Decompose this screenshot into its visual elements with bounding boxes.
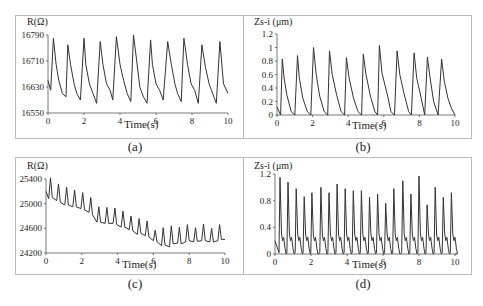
- panel-b-xlabel: Time(s): [352, 119, 386, 131]
- svg-text:10: 10: [224, 116, 234, 126]
- svg-text:0.8: 0.8: [260, 196, 272, 206]
- svg-text:0: 0: [273, 257, 278, 267]
- svg-text:0: 0: [44, 256, 49, 266]
- series-line-c: [46, 178, 225, 247]
- panel-b-caption: (b): [343, 139, 383, 155]
- svg-text:1.2: 1.2: [262, 29, 273, 39]
- svg-text:16710: 16710: [22, 56, 45, 66]
- panel-c-caption: (c): [115, 276, 155, 292]
- svg-text:0.4: 0.4: [262, 83, 274, 93]
- svg-text:16550: 16550: [22, 108, 45, 118]
- svg-text:8: 8: [417, 257, 422, 267]
- series-line-b: [277, 46, 455, 116]
- panel-d-ylabel: Zs-i (μm): [254, 160, 292, 171]
- svg-text:0.4: 0.4: [260, 222, 272, 232]
- svg-text:24600: 24600: [20, 223, 43, 233]
- svg-text:16630: 16630: [22, 82, 45, 92]
- svg-text:4: 4: [118, 116, 123, 126]
- svg-text:0: 0: [275, 118, 280, 128]
- svg-text:2: 2: [80, 256, 85, 266]
- svg-text:0: 0: [267, 249, 272, 259]
- svg-text:4: 4: [346, 118, 351, 128]
- chart-c: 024681024200246002500025400: [20, 174, 231, 266]
- panel-c-xlabel: Time(s): [122, 258, 156, 270]
- panel-b-ylabel: Zs-i (μm): [254, 16, 292, 27]
- svg-text:0: 0: [269, 110, 274, 120]
- series-line-a: [48, 35, 228, 103]
- panel-d-caption: (d): [343, 276, 383, 292]
- svg-text:0.6: 0.6: [262, 70, 274, 80]
- svg-text:1: 1: [269, 43, 274, 53]
- chart-d: 024681000.40.81.2: [260, 169, 460, 267]
- svg-text:25000: 25000: [20, 199, 43, 209]
- panel-a-ylabel: R(Ω): [27, 16, 48, 27]
- chart-b: 024681000.20.40.60.811.2: [262, 29, 460, 128]
- svg-text:0.2: 0.2: [262, 97, 273, 107]
- svg-text:2: 2: [82, 116, 87, 126]
- svg-text:8: 8: [187, 256, 192, 266]
- panel-a-caption: (a): [115, 139, 155, 155]
- svg-text:10: 10: [221, 256, 231, 266]
- svg-text:8: 8: [417, 118, 422, 128]
- svg-text:24200: 24200: [20, 248, 43, 258]
- svg-text:4: 4: [345, 257, 350, 267]
- svg-text:10: 10: [451, 118, 461, 128]
- panel-d-xlabel: Time(s): [352, 258, 386, 270]
- svg-text:10: 10: [451, 257, 461, 267]
- panel-c-ylabel: R(Ω): [27, 160, 48, 171]
- svg-text:8: 8: [190, 116, 195, 126]
- svg-text:0.8: 0.8: [262, 56, 274, 66]
- svg-text:0: 0: [46, 116, 51, 126]
- svg-text:2: 2: [310, 118, 315, 128]
- charts-canvas: 024681016550166301671016790 024681000.20…: [0, 0, 483, 306]
- svg-text:25400: 25400: [20, 174, 43, 184]
- svg-text:2: 2: [309, 257, 314, 267]
- chart-a: 024681016550166301671016790: [22, 30, 234, 126]
- svg-text:4: 4: [115, 256, 120, 266]
- svg-text:16790: 16790: [22, 30, 45, 40]
- series-line-d: [275, 176, 458, 254]
- panel-a-xlabel: Time(s): [124, 118, 158, 130]
